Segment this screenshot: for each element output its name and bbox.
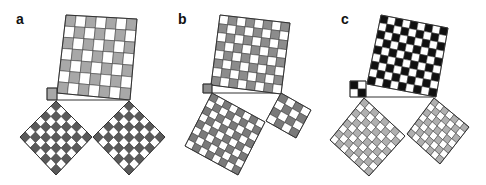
- cell: [85, 16, 96, 28]
- cell: [269, 39, 279, 49]
- cell: [245, 18, 255, 28]
- cell: [91, 62, 102, 74]
- cell: [216, 41, 226, 51]
- cell: [80, 61, 92, 73]
- cell: [231, 61, 241, 71]
- cell: [260, 38, 270, 48]
- cell: [350, 81, 358, 89]
- cell: [92, 51, 103, 63]
- cell: [254, 19, 264, 29]
- cell: [63, 26, 74, 38]
- unit-square: [203, 84, 212, 93]
- cell: [271, 21, 281, 31]
- panel-label-b: b: [178, 12, 187, 26]
- cell: [251, 45, 261, 55]
- cell: [244, 27, 254, 37]
- cell: [101, 63, 112, 75]
- panel-a: [20, 15, 165, 175]
- cell: [100, 74, 111, 86]
- cell: [270, 30, 280, 40]
- cell: [262, 29, 272, 39]
- cell: [253, 28, 263, 38]
- cell: [236, 17, 246, 27]
- cell: [84, 27, 95, 39]
- cell: [61, 48, 73, 60]
- cell: [255, 82, 265, 92]
- right-leg-square: [407, 98, 469, 164]
- cell: [238, 71, 248, 81]
- figure: a b c: [0, 0, 486, 185]
- left-leg-square: [185, 93, 265, 175]
- cell: [278, 40, 288, 50]
- cell: [214, 50, 224, 60]
- cell: [93, 39, 104, 51]
- cell: [248, 63, 258, 73]
- cell: [242, 44, 252, 54]
- cell: [57, 82, 69, 94]
- cell: [220, 77, 230, 87]
- cell: [227, 25, 237, 35]
- cell: [212, 68, 222, 78]
- hypotenuse-square: [367, 15, 448, 97]
- cell: [263, 20, 273, 30]
- cell: [124, 41, 135, 53]
- cell: [110, 75, 121, 87]
- cell: [279, 31, 289, 41]
- cell: [102, 51, 113, 63]
- cell: [69, 72, 81, 84]
- panel-b: [185, 15, 311, 175]
- cell: [67, 83, 79, 95]
- cell: [94, 28, 105, 40]
- cell: [47, 88, 57, 100]
- left-leg-square: [20, 101, 92, 175]
- cell: [83, 39, 94, 51]
- cell: [88, 85, 100, 97]
- cell: [235, 26, 245, 36]
- cell: [122, 64, 133, 76]
- cell: [74, 27, 85, 39]
- cell: [81, 50, 92, 62]
- cell: [78, 84, 90, 96]
- cell: [219, 15, 229, 25]
- cell: [120, 87, 131, 100]
- cell: [121, 76, 132, 88]
- cell: [272, 84, 282, 94]
- cell: [241, 53, 251, 63]
- cell: [116, 18, 127, 30]
- cell: [234, 35, 244, 45]
- cell: [222, 60, 232, 70]
- cell: [123, 53, 134, 65]
- cell: [277, 49, 287, 59]
- cell: [259, 46, 269, 56]
- hypotenuse-square: [57, 15, 137, 100]
- cell: [256, 73, 266, 83]
- cell: [243, 36, 253, 46]
- right-leg-square: [266, 93, 311, 138]
- cell: [72, 38, 83, 50]
- cell: [230, 70, 240, 80]
- cell: [237, 80, 247, 90]
- cell: [228, 16, 238, 26]
- checkerboard-squares-diagram: [0, 0, 486, 185]
- right-leg-square: [93, 101, 165, 175]
- cell: [252, 37, 262, 47]
- cell: [111, 64, 122, 76]
- cell: [268, 48, 278, 58]
- cell: [109, 87, 120, 99]
- cell: [249, 54, 259, 64]
- cell: [104, 29, 115, 41]
- cell: [247, 72, 257, 82]
- cell: [232, 52, 242, 62]
- cell: [246, 81, 256, 91]
- cell: [266, 65, 276, 75]
- cell: [358, 89, 366, 97]
- cell: [79, 72, 91, 84]
- panel-label-c: c: [341, 12, 349, 26]
- cell: [223, 51, 233, 61]
- cell: [60, 60, 72, 72]
- left-leg-square: [330, 98, 405, 176]
- cell: [125, 30, 136, 42]
- cell: [105, 17, 116, 29]
- cell: [112, 52, 123, 64]
- cell: [58, 71, 70, 83]
